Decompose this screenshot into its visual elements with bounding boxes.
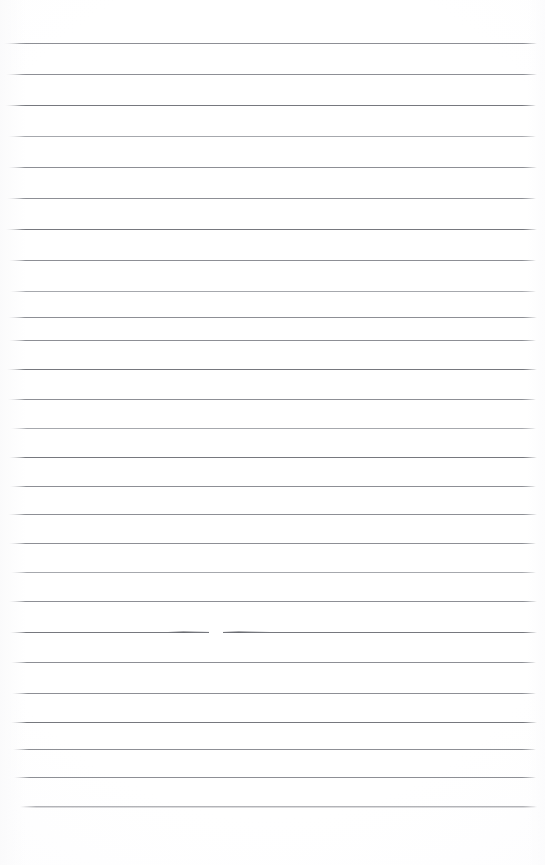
ruled-line — [12, 693, 536, 694]
ruled-line — [5, 105, 536, 106]
ruled-line — [7, 369, 537, 370]
ruled-line — [14, 777, 536, 778]
ruled-line — [20, 806, 537, 808]
scan-edge-right-shadow — [527, 0, 545, 865]
ruled-line — [11, 572, 536, 573]
ruled-line — [11, 662, 536, 663]
paper-texture-overlay — [0, 0, 545, 865]
ruled-line — [10, 632, 537, 633]
ruled-line — [9, 601, 537, 602]
ruled-line — [7, 198, 536, 199]
ruled-line — [6, 74, 537, 75]
ruled-line — [8, 399, 536, 400]
ruled-line — [9, 457, 537, 458]
ruled-line — [8, 514, 537, 515]
ruled-line — [6, 229, 537, 230]
ruled-line — [9, 260, 536, 261]
ruled-line — [11, 428, 536, 429]
notebook-page — [0, 0, 545, 865]
ruled-line — [13, 749, 536, 750]
ruled-line — [8, 136, 536, 137]
ruled-line — [8, 317, 537, 318]
ruled-line — [9, 340, 536, 341]
ruled-line — [10, 291, 536, 292]
scan-edge-left-shadow — [0, 0, 26, 865]
ruled-line — [8, 167, 537, 168]
ruled-line — [9, 543, 536, 544]
ruled-line — [10, 486, 536, 487]
ruled-line — [11, 722, 537, 723]
ruled-line — [4, 43, 537, 44]
